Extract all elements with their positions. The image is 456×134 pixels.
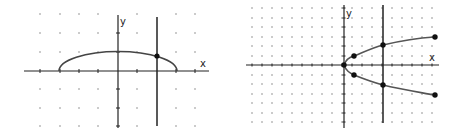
grid-dot [331,36,333,38]
grid-dot [59,13,61,15]
grid-dot [301,102,303,104]
grid-dot [261,17,263,19]
graph-left: x y [0,0,228,134]
grid-dot [361,74,363,76]
grid-dot [391,74,393,76]
grid-dot [361,7,363,9]
grid-dot [421,17,423,19]
grid-dot [281,7,283,9]
grid-dot [391,17,393,19]
grid-dot [391,112,393,114]
graph-right: x y [228,0,456,134]
grid-dot [361,26,363,28]
grid-dot [301,17,303,19]
grid-dot [78,88,80,90]
grid-dot [431,102,433,104]
grid-dot [361,55,363,57]
grid-dot [331,7,333,9]
grid-dot [401,102,403,104]
grid-dot [361,83,363,85]
grid-dot [421,45,423,47]
grid-dot [311,36,313,38]
grid-dot [301,45,303,47]
grid-dot [321,55,323,57]
grid-dot [371,17,373,19]
grid-dot [391,45,393,47]
grid-dot [351,112,353,114]
grid-dot [175,125,177,127]
grid-dot [331,121,333,123]
grid-dot [271,102,273,104]
grid-dot [78,125,80,127]
grid-dot [351,121,353,123]
grid-dot [194,51,196,53]
grid-dot [421,112,423,114]
grid-dot [321,102,323,104]
grid-dot [311,7,313,9]
grid-dot [78,32,80,34]
grid-dot [411,36,413,38]
grid-dot [321,7,323,9]
point-1-neg1 [351,72,356,77]
grid-dot [311,26,313,28]
grid-dot [321,26,323,28]
grid-dot [301,121,303,123]
grid-dot [175,13,177,15]
grid-dot [271,83,273,85]
grid-dot [401,45,403,47]
grid-dot [391,7,393,9]
graph-right-canvas: x y [228,0,456,134]
grid-dot [401,26,403,28]
grid-dot [175,51,177,53]
grid-dot [321,45,323,47]
grid-dot [311,45,313,47]
grid-dot [271,17,273,19]
grid-dot [321,121,323,123]
grid-dot [291,102,293,104]
grid-dot [271,7,273,9]
point-9-neg3 [432,92,437,97]
grid-dot [411,83,413,85]
point-origin [341,62,346,67]
grid-dot [261,112,263,114]
y-axis-label: y [120,16,126,27]
grid-dot [78,13,80,15]
grid-dot [321,17,323,19]
grid-dot [251,45,253,47]
grid-dot [301,83,303,85]
grid-dot [311,102,313,104]
grid-dot [361,102,363,104]
grid-dot [401,121,403,123]
grid-dot [271,112,273,114]
grid-dot [411,7,413,9]
grid-dot [261,55,263,57]
grid-dot [251,74,253,76]
grid-dot [251,7,253,9]
grid-dot [431,74,433,76]
grid-dot [391,83,393,85]
grid-dot [331,102,333,104]
grid-dot [401,17,403,19]
grid-dot [136,32,138,34]
grid-dot [271,74,273,76]
grid-dot [281,36,283,38]
grid-dot [371,7,373,9]
grid-dot [97,32,99,34]
grid-dot [271,36,273,38]
grid-dot [251,26,253,28]
grid-dot [194,32,196,34]
x-axis-label: x [200,58,206,69]
grid-dot [78,51,80,53]
grid-dot [271,45,273,47]
grid-dot [261,121,263,123]
grid-dot [281,74,283,76]
grid-dot [291,17,293,19]
parabola-upper-branch [344,37,434,65]
grid-dot [351,102,353,104]
grid-dot [411,45,413,47]
point-1-1 [351,53,356,58]
grid-dot [251,83,253,85]
grid-dot [175,88,177,90]
grid-dot [331,45,333,47]
grid-dot [291,83,293,85]
